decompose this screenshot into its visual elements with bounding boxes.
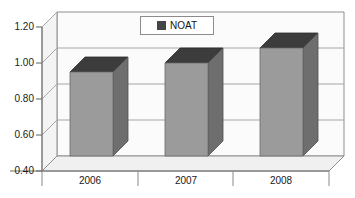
y-axis-ticks bbox=[36, 27, 42, 171]
x-axis-label-2006: 2006 bbox=[60, 175, 120, 186]
bar-2007[interactable] bbox=[165, 48, 223, 156]
y-axis-label-0.60: 0.60 bbox=[0, 129, 34, 140]
x-axis-label-2007: 2007 bbox=[156, 175, 216, 186]
bar-2008-side bbox=[303, 33, 318, 156]
bar-2006-side bbox=[113, 57, 128, 156]
bar-chart: 1.20 1.00 0.80 0.60 0.40 2006 2007 2008 … bbox=[0, 0, 355, 198]
y-axis-label-0.80: 0.80 bbox=[0, 93, 34, 104]
bar-2007-front bbox=[165, 63, 208, 156]
legend-swatch-noat bbox=[157, 21, 166, 30]
y-axis-label-0.40: 0.40 bbox=[0, 165, 34, 176]
bar-2006[interactable] bbox=[70, 57, 128, 156]
y-axis-label-1.00: 1.00 bbox=[0, 57, 34, 68]
bar-2008-front bbox=[260, 48, 303, 156]
y-axis-label-1.20: 1.20 bbox=[0, 21, 34, 32]
legend-label-noat: NOAT bbox=[170, 21, 197, 31]
chart-legend[interactable]: NOAT bbox=[140, 16, 214, 35]
bar-2006-front bbox=[70, 72, 113, 156]
plot-floor bbox=[42, 156, 344, 171]
x-axis-label-2008: 2008 bbox=[251, 175, 311, 186]
bar-2008[interactable] bbox=[260, 33, 318, 156]
bar-2007-side bbox=[208, 48, 223, 156]
